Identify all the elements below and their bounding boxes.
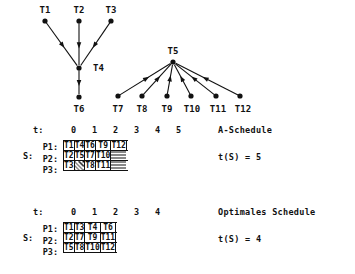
a-schedule-s-label: S:: [23, 152, 33, 161]
a-schedule-task-cell: T7: [85, 151, 96, 161]
figure-root: T1T2T3T4T6T5T7T8T9T10T11T12 t: 012345 S:…: [0, 0, 355, 274]
a-schedule-row: T2T5T7T10: [64, 151, 128, 161]
b-schedule-task-cell: T8: [74, 243, 85, 253]
a-schedule-end-marker: [126, 141, 127, 151]
b-schedule-tick-3: 3: [131, 208, 143, 217]
graph-node-t4: [76, 65, 81, 70]
a-schedule-task-cell: T2: [64, 151, 75, 161]
graph-node-label-t11: T11: [210, 104, 226, 114]
a-schedule-task-cell: T6: [85, 141, 96, 151]
b-schedule-tick-1: 1: [89, 208, 101, 217]
graph-node-t9: [164, 93, 169, 98]
graph-edge-arrowhead: [178, 75, 185, 83]
a-schedule-end-marker: [126, 151, 127, 161]
graph-edge-arrowhead: [77, 42, 82, 48]
graph-node-t7: [115, 93, 120, 98]
a-schedule-tick-2: 2: [110, 126, 122, 135]
a-schedule-grid: T1T4T6T9T12T2T5T7T10T3T8T11: [63, 140, 128, 171]
graph-edges: [46, 23, 238, 95]
b-schedule-task-cell: T3: [74, 223, 85, 233]
b-schedule-end-marker: [116, 233, 117, 243]
a-schedule-task-cell: T11: [95, 161, 110, 171]
a-schedule-idle-slot: [74, 161, 85, 171]
b-schedule-processor-label-3: P3:: [36, 248, 58, 257]
a-schedule-task-cell: T8: [85, 161, 96, 171]
b-schedule-task-cell: T5: [64, 243, 75, 253]
a-schedule-processor-label-1: P1:: [36, 143, 58, 152]
graph-node-t1: [42, 18, 47, 23]
b-schedule-s-label: S:: [23, 234, 33, 243]
b-schedule-row: T2T7T9T11: [64, 233, 117, 243]
b-schedule-task-cell: T9: [85, 233, 100, 243]
graph-node-t8: [139, 93, 144, 98]
graph-edge-arrowhead: [77, 80, 82, 86]
graph-node-t11: [213, 93, 218, 98]
a-schedule-caption: A-Schedule: [218, 126, 272, 135]
a-schedule-tick-3: 3: [131, 126, 143, 135]
a-schedule-tail-slot: [111, 151, 126, 161]
a-time-axis-label: t:: [33, 126, 44, 135]
graph-node-t5: [170, 59, 175, 64]
graph-edge-arrowhead: [201, 75, 209, 82]
a-schedule-processor-label-3: P3:: [36, 166, 58, 175]
graph-node-label-t8: T8: [137, 104, 148, 114]
graph-node-label-t9: T9: [162, 104, 173, 114]
a-schedule-tick-1: 1: [89, 126, 101, 135]
a-schedule-cost: t(S) = 5: [218, 153, 261, 162]
b-schedule-processor-label-1: P1:: [36, 225, 58, 234]
graph-node-label-t1: T1: [40, 5, 51, 15]
b-schedule-tick-2: 2: [110, 208, 122, 217]
a-schedule-task-cell: T10: [95, 151, 110, 161]
a-schedule-task-cell: T1: [64, 141, 75, 151]
b-schedule-task-cell: T10: [85, 243, 100, 253]
graph-node-t2: [76, 18, 81, 23]
a-schedule-task-cell: T9: [95, 141, 110, 151]
graph-node-label-t6: T6: [74, 104, 85, 114]
b-schedule-tick-4: 4: [152, 208, 164, 217]
graph-edge-arrowhead: [143, 75, 151, 82]
graph-node-label-t12: T12: [235, 104, 251, 114]
b-schedule-task-cell: T2: [64, 233, 75, 243]
a-schedule-task-cell: T3: [64, 161, 75, 171]
a-schedule-task-cell: T5: [74, 151, 85, 161]
b-schedule-processor-label-2: P2:: [36, 237, 58, 246]
graph-node-t3: [108, 18, 113, 23]
graph-node-label-t3: T3: [106, 5, 117, 15]
a-schedule-end-marker: [126, 161, 127, 171]
graph-node-label-t5: T5: [168, 46, 179, 56]
b-schedule-tick-0: 0: [68, 208, 80, 217]
a-schedule-tick-4: 4: [152, 126, 164, 135]
a-schedule-task-cell: T4: [74, 141, 85, 151]
a-schedule-tick-5: 5: [173, 126, 185, 135]
b-schedule-task-cell: T6: [100, 223, 115, 233]
graph-node-label-t10: T10: [184, 104, 200, 114]
b-schedule-task-cell: T4: [85, 223, 100, 233]
graph-node-labels: T1T2T3T4T6T5T7T8T9T10T11T12: [40, 5, 252, 114]
graph-node-label-t2: T2: [74, 5, 85, 15]
b-schedule-row: T5T8T10T12: [64, 243, 117, 253]
precedence-graph: T1T2T3T4T6T5T7T8T9T10T11T12: [0, 0, 355, 120]
b-schedule-end-marker: [116, 223, 117, 233]
b-time-axis-label: t:: [33, 208, 44, 217]
a-schedule-tick-0: 0: [68, 126, 80, 135]
a-schedule-row: T1T4T6T9T12: [64, 141, 128, 151]
graph-node-t12: [237, 93, 242, 98]
graph-node-t6: [76, 94, 81, 99]
graph-node-label-t7: T7: [113, 104, 124, 114]
b-schedule-task-cell: T11: [100, 233, 115, 243]
graph-edge-arrowhead: [91, 42, 98, 50]
a-schedule-task-cell: T12: [111, 141, 126, 151]
b-schedule-task-cell: T7: [74, 233, 85, 243]
graph-node-t10: [188, 93, 193, 98]
a-schedule-processor-label-2: P2:: [36, 155, 58, 164]
graph-node-label-t4: T4: [93, 63, 104, 73]
b-schedule-task-cell: T1: [64, 223, 75, 233]
b-schedule-caption: Optimales Schedule: [218, 208, 316, 217]
b-schedule-cost: t(S) = 4: [218, 235, 261, 244]
b-schedule-end-marker: [116, 243, 117, 253]
b-schedule-row: T1T3T4T6: [64, 223, 117, 233]
a-schedule-row: T3T8T11: [64, 161, 128, 171]
b-schedule-grid: T1T3T4T6T2T7T9T11T5T8T10T12: [63, 222, 117, 253]
a-schedule-tail-slot: [111, 161, 126, 171]
b-schedule-task-cell: T12: [100, 243, 115, 253]
